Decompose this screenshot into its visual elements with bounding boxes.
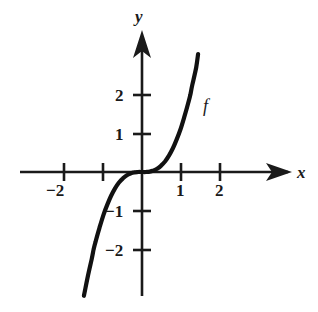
x-tick-label-1: 1 [176,181,185,200]
y-axis-label: y [133,7,143,26]
y-tick-label-1: 1 [115,125,124,144]
x-tick-label-2: 2 [215,181,224,200]
y-tick-label-minus1: −1 [105,202,123,221]
x-tick-label-minus2: −2 [46,181,64,200]
y-tick-label-2: 2 [115,86,124,105]
y-tick-label-minus2: −2 [105,241,123,260]
graph-canvas: −2 1 2 2 1 −1 −2 x y f [0,0,318,312]
x-axis-label: x [296,163,306,182]
function-graph-figure: −2 1 2 2 1 −1 −2 x y f [0,0,318,312]
curve-label-f: f [203,96,211,116]
